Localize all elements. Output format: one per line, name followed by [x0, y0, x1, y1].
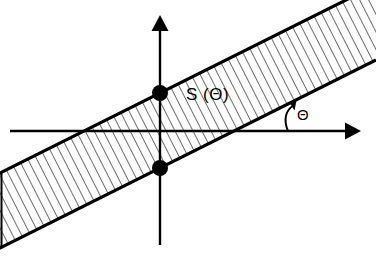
- angle-label: Θ: [297, 107, 309, 122]
- hatched-strip: [0, 0, 376, 256]
- angle-arc: [286, 106, 294, 132]
- figure-container: S (Θ) Θ: [0, 0, 376, 256]
- strip-hatch-fill: [0, 0, 376, 256]
- strip-label: S (Θ): [186, 86, 229, 103]
- figure-canvas: [0, 0, 376, 256]
- vertical-axis-arrow-icon: [152, 15, 169, 31]
- upper-intersection-dot: [152, 85, 168, 101]
- horizontal-axis-arrow-icon: [345, 123, 361, 140]
- lower-intersection-dot: [152, 160, 168, 176]
